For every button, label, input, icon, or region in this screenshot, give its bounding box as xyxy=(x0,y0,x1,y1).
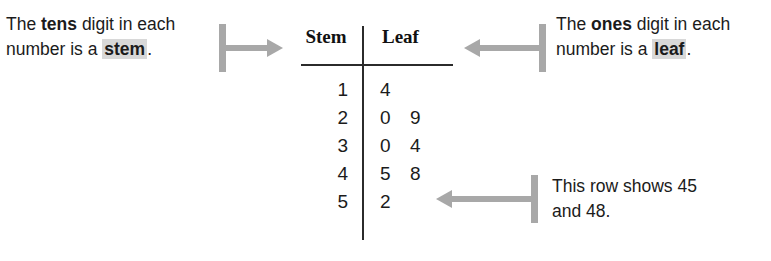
table-row: 5 2 xyxy=(296,188,456,216)
callout-stem-text-lead: number is a xyxy=(6,39,102,59)
table-row: 3 04 xyxy=(296,132,456,160)
arrow-shaft-icon xyxy=(452,196,532,202)
callout-stem-line-2: number is a stem. xyxy=(6,37,175,62)
arrow-pointer-row-example xyxy=(434,175,538,223)
leaf-digit: 4 xyxy=(410,132,440,160)
callout-leaf-highlight-term: leaf xyxy=(652,39,686,59)
arrow-pointer-leaf-to-table xyxy=(462,24,546,72)
callout-leaf-line-1: The ones digit in each xyxy=(556,12,730,37)
callout-leaf-definition: The ones digit in each number is a leaf. xyxy=(556,12,730,62)
callout-stem-definition: The tens digit in each number is a stem. xyxy=(6,12,175,62)
arrow-head-left-icon xyxy=(436,190,452,208)
leaf-values: 4 xyxy=(380,76,410,104)
pointer-bar-icon xyxy=(531,175,538,223)
leaf-digit: 9 xyxy=(410,104,440,132)
arrow-shaft-icon xyxy=(225,45,269,51)
stem-value: 2 xyxy=(296,104,348,132)
column-header-leaf: Leaf xyxy=(382,26,430,48)
leaf-values: 2 xyxy=(380,188,410,216)
callout-leaf-text-post: digit in each xyxy=(632,14,730,34)
callout-leaf-line-2: number is a leaf. xyxy=(556,37,730,62)
callout-leaf-text-lead: number is a xyxy=(556,39,652,59)
table-row: 2 09 xyxy=(296,104,456,132)
leaf-digit: 0 xyxy=(380,132,410,160)
callout-stem-line-1: The tens digit in each xyxy=(6,12,175,37)
arrow-head-left-icon xyxy=(464,39,480,57)
leaf-digit: 2 xyxy=(380,188,410,216)
leaf-values: 09 xyxy=(380,104,440,132)
table-row: 4 58 xyxy=(296,160,456,188)
callout-row-line-2: and 48. xyxy=(552,199,697,224)
callout-leaf-text-period: . xyxy=(686,39,691,59)
callout-leaf-text-pre: The xyxy=(556,14,591,34)
arrow-pointer-stem-to-table xyxy=(219,24,285,72)
stem-value: 4 xyxy=(296,160,348,188)
arrow-shaft-icon xyxy=(480,45,540,51)
stem-value: 5 xyxy=(296,188,348,216)
column-header-stem: Stem xyxy=(300,26,352,48)
leaf-digit: 4 xyxy=(380,76,410,104)
table-row: 1 4 xyxy=(296,76,456,104)
leaf-values: 04 xyxy=(380,132,440,160)
stem-and-leaf-diagram: The tens digit in each number is a stem.… xyxy=(0,0,771,261)
pointer-bar-icon xyxy=(539,24,546,72)
stem-value: 3 xyxy=(296,132,348,160)
callout-row-example: This row shows 45 and 48. xyxy=(552,174,697,224)
callout-stem-text-post: digit in each xyxy=(77,14,175,34)
callout-stem-highlight-term: stem xyxy=(102,39,147,59)
callout-stem-text-period: . xyxy=(147,39,152,59)
plot-rows: 1 4 2 09 3 04 4 58 5 2 xyxy=(296,76,456,216)
stem-value: 1 xyxy=(296,76,348,104)
callout-stem-emphasis-tens: tens xyxy=(41,14,77,34)
leaf-digit: 5 xyxy=(380,160,410,188)
leaf-values: 58 xyxy=(380,160,440,188)
callout-leaf-emphasis-ones: ones xyxy=(591,14,632,34)
header-divider-rule xyxy=(301,64,453,66)
stem-and-leaf-plot: Stem Leaf 1 4 2 09 3 04 4 58 5 2 xyxy=(296,26,456,246)
callout-stem-text-pre: The xyxy=(6,14,41,34)
leaf-digit: 0 xyxy=(380,104,410,132)
callout-row-line-1: This row shows 45 xyxy=(552,174,697,199)
arrow-head-right-icon xyxy=(267,39,283,57)
